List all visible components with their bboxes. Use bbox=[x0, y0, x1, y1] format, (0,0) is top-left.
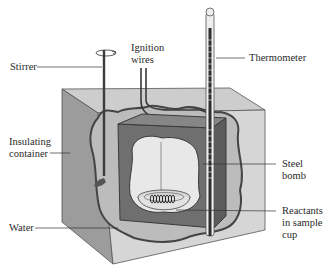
label-ignition-line1: Ignition bbox=[131, 42, 164, 54]
label-water: Water bbox=[9, 222, 34, 234]
label-insulating-line2: container bbox=[9, 148, 51, 160]
label-ignition-wires: Ignition wires bbox=[131, 42, 164, 66]
label-steel-line1: Steel bbox=[282, 158, 306, 170]
label-reactants-line1: Reactants bbox=[282, 205, 323, 217]
label-reactants-line3: cup bbox=[282, 229, 323, 241]
label-ignition-line2: wires bbox=[131, 54, 164, 66]
ignition-coil bbox=[150, 195, 174, 203]
thermometer bbox=[206, 8, 214, 236]
label-thermometer: Thermometer bbox=[249, 52, 306, 64]
label-reactants-line2: in sample bbox=[282, 217, 323, 229]
label-insulating-line1: Insulating bbox=[9, 136, 51, 148]
label-insulating-container: Insulating container bbox=[9, 136, 51, 160]
label-steel-bomb: Steel bomb bbox=[282, 158, 306, 182]
label-reactants: Reactants in sample cup bbox=[282, 205, 323, 241]
label-stirrer: Stirrer bbox=[10, 61, 37, 73]
label-steel-line2: bomb bbox=[282, 170, 306, 182]
